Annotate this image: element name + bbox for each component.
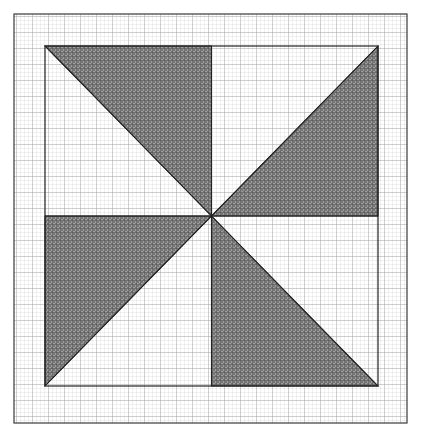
figure-root [0, 0, 421, 439]
pinwheel-figure-svg [0, 0, 421, 439]
